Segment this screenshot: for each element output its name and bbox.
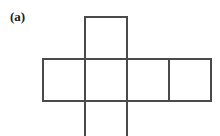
- net-square-strip-1: [43, 59, 85, 101]
- net-square-top: [85, 17, 127, 59]
- cube-net-diagram: [0, 0, 220, 136]
- net-square-strip-2: [85, 59, 127, 101]
- figure-panel: (a): [0, 0, 220, 136]
- net-faces-group: [43, 17, 211, 136]
- net-square-strip-3: [127, 59, 169, 101]
- net-square-strip-4: [169, 59, 211, 101]
